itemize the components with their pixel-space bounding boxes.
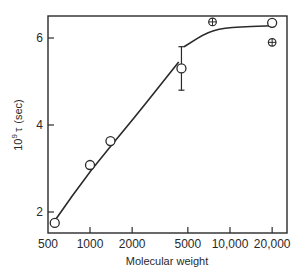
curve-segment-low <box>55 62 179 221</box>
open-circle-marker <box>177 64 186 73</box>
fitted-curve <box>55 26 272 221</box>
svg-text:109τ(sec): 109τ(sec) <box>10 99 24 151</box>
open-circle-marker <box>50 218 59 227</box>
y-axis-title-symbol: τ <box>12 127 24 132</box>
y-axis: 246 <box>36 31 54 219</box>
plot-frame <box>48 16 287 233</box>
y-tick-label: 6 <box>36 31 43 45</box>
x-axis-title: Molecular weight <box>126 255 209 267</box>
y-axis-title-exp: 9 <box>10 134 19 139</box>
open-circle-marker <box>106 137 115 146</box>
x-tick-label: 10,000 <box>212 237 249 251</box>
x-tick-label: 500 <box>38 237 58 251</box>
chart-canvas: 246 50010002000500010,00020,000 Molecula… <box>0 0 306 274</box>
x-tick-label: 1000 <box>77 237 104 251</box>
y-axis-title-unit: (sec) <box>12 99 24 123</box>
y-axis-title-base: 10 <box>12 139 24 151</box>
y-axis-title: 109τ(sec) <box>10 99 24 151</box>
x-tick-label: 20,000 <box>254 237 291 251</box>
x-tick-label: 5000 <box>175 237 202 251</box>
plot-border <box>48 16 287 233</box>
open-circle-marker <box>86 161 95 170</box>
y-tick-label: 4 <box>36 118 43 132</box>
curve-segment-high <box>184 26 272 47</box>
open-circle-marker <box>268 18 277 27</box>
data-points <box>50 18 276 227</box>
x-tick-label: 2000 <box>119 237 146 251</box>
y-tick-label: 2 <box>36 205 43 219</box>
x-axis: 50010002000500010,00020,000 <box>38 227 291 251</box>
